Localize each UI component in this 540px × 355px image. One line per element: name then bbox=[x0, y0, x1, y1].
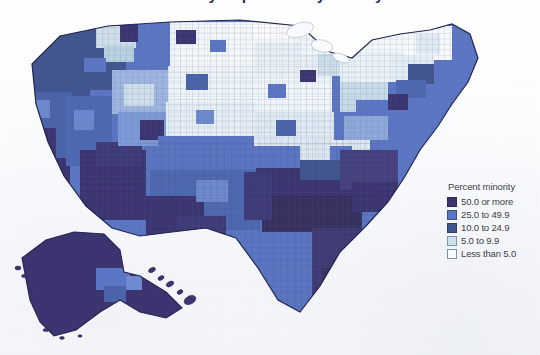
legend-swatch-50-or-more bbox=[447, 197, 457, 207]
legend-item-5-to-9[interactable]: 5.0 to 9.9 bbox=[447, 234, 539, 247]
legend-label-less-than-5: Less than 5.0 bbox=[461, 248, 516, 259]
legend-swatch-25-to-49 bbox=[447, 210, 457, 220]
legend-title: Percent minority bbox=[448, 181, 539, 192]
legend-item-10-to-24[interactable]: 10.0 to 24.9 bbox=[447, 221, 539, 234]
map-figure: Minority Population by County bbox=[0, 0, 540, 355]
legend-item-25-to-49[interactable]: 25.0 to 49.9 bbox=[447, 208, 539, 221]
legend-label-25-to-49: 25.0 to 49.9 bbox=[461, 209, 509, 220]
legend-swatch-10-to-24 bbox=[447, 223, 457, 233]
legend-label-5-to-9: 5.0 to 9.9 bbox=[461, 235, 499, 246]
legend-item-less-than-5[interactable]: Less than 5.0 bbox=[447, 247, 539, 260]
us-county-map-svg bbox=[0, 0, 540, 355]
legend-swatch-less-than-5 bbox=[447, 249, 457, 259]
legend-item-50-or-more[interactable]: 50.0 or more bbox=[447, 195, 539, 208]
legend-label-50-or-more: 50.0 or more bbox=[461, 196, 513, 207]
legend-label-10-to-24: 10.0 to 24.9 bbox=[461, 222, 509, 233]
choropleth-map[interactable] bbox=[0, 0, 540, 355]
map-legend: Percent minority 50.0 or more 25.0 to 49… bbox=[447, 181, 539, 260]
legend-swatch-5-to-9 bbox=[447, 236, 457, 246]
